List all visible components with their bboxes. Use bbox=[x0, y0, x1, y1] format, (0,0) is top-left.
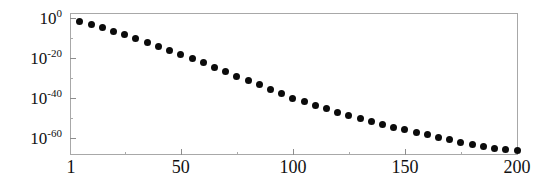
data-point bbox=[357, 115, 364, 122]
data-point bbox=[155, 43, 162, 50]
x-axis-tick-labels: 150100150200 bbox=[0, 158, 543, 190]
data-point bbox=[323, 105, 330, 112]
y-axis-tick bbox=[70, 18, 76, 19]
x-axis-tick-label: 50 bbox=[172, 158, 190, 178]
data-point bbox=[312, 102, 319, 109]
data-point bbox=[233, 73, 240, 80]
data-point bbox=[99, 24, 106, 31]
y-axis-minor-tick bbox=[70, 38, 73, 39]
data-point bbox=[267, 86, 274, 93]
y-axis-tick-label: 10-20 bbox=[30, 50, 62, 67]
data-point bbox=[289, 95, 296, 102]
y-axis-tick bbox=[70, 98, 76, 99]
x-axis-minor-tick bbox=[237, 152, 238, 155]
data-point bbox=[222, 68, 229, 75]
x-axis-tick bbox=[181, 149, 182, 155]
x-axis-tick bbox=[293, 149, 294, 155]
data-point bbox=[211, 64, 218, 71]
y-tick-mantissa: 10 bbox=[30, 49, 47, 68]
data-point bbox=[480, 143, 487, 150]
x-axis-tick-label: 200 bbox=[504, 158, 531, 178]
y-axis-tick-label: 10-40 bbox=[30, 90, 62, 107]
figure-container: 10010-2010-4010-60 150100150200 bbox=[0, 0, 543, 196]
y-axis-minor-tick bbox=[70, 78, 73, 79]
data-point bbox=[245, 77, 252, 84]
y-tick-exponent: -40 bbox=[47, 87, 62, 99]
y-tick-mantissa: 10 bbox=[30, 129, 47, 148]
y-axis-minor-tick bbox=[70, 118, 73, 119]
data-point bbox=[278, 90, 285, 97]
data-point bbox=[88, 21, 95, 28]
data-point bbox=[177, 51, 184, 58]
data-point bbox=[144, 39, 151, 46]
data-point bbox=[457, 139, 464, 146]
y-tick-mantissa: 10 bbox=[30, 89, 47, 108]
x-axis-tick bbox=[405, 149, 406, 155]
y-axis-tick-label: 100 bbox=[40, 10, 63, 27]
data-point bbox=[166, 47, 173, 54]
data-point bbox=[121, 31, 128, 38]
data-point bbox=[491, 145, 498, 152]
plot-area bbox=[71, 14, 517, 154]
x-axis-tick-label: 1 bbox=[67, 158, 76, 178]
data-point bbox=[200, 59, 207, 66]
plot-frame bbox=[70, 13, 518, 155]
data-point bbox=[334, 109, 341, 116]
data-point bbox=[379, 121, 386, 128]
data-point bbox=[76, 18, 83, 25]
x-axis-tick-label: 150 bbox=[391, 158, 418, 178]
data-point bbox=[435, 134, 442, 141]
x-axis-minor-tick bbox=[349, 152, 350, 155]
data-point bbox=[368, 118, 375, 125]
data-point bbox=[256, 81, 263, 88]
data-point bbox=[469, 141, 476, 148]
data-point bbox=[132, 35, 139, 42]
y-tick-exponent: -60 bbox=[47, 127, 62, 139]
y-tick-mantissa: 10 bbox=[40, 9, 57, 28]
data-point bbox=[424, 131, 431, 138]
data-point bbox=[446, 136, 453, 143]
x-axis-minor-tick bbox=[125, 152, 126, 155]
y-axis-tick bbox=[70, 138, 76, 139]
data-point bbox=[189, 55, 196, 62]
y-tick-exponent: 0 bbox=[57, 7, 63, 19]
data-point bbox=[413, 129, 420, 136]
x-axis-tick-label: 100 bbox=[279, 158, 306, 178]
data-point bbox=[514, 147, 521, 154]
data-point bbox=[345, 112, 352, 119]
data-point bbox=[502, 146, 509, 153]
data-point bbox=[401, 126, 408, 133]
data-point bbox=[301, 98, 308, 105]
y-axis-tick bbox=[70, 58, 76, 59]
x-axis-minor-tick bbox=[461, 152, 462, 155]
data-point bbox=[110, 28, 117, 35]
y-tick-exponent: -20 bbox=[47, 47, 62, 59]
data-point bbox=[390, 124, 397, 131]
y-axis-tick-label: 10-60 bbox=[30, 130, 62, 147]
